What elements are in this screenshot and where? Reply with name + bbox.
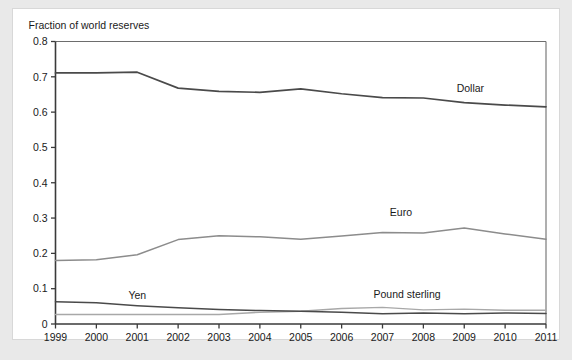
x-axis-tick-label: 2000 — [85, 331, 109, 343]
x-axis-tick-label: 2010 — [493, 331, 517, 343]
y-axis-tick-label: 0.8 — [33, 35, 48, 47]
x-axis-tick-label: 2011 — [535, 331, 558, 343]
chart-title: Fraction of world reserves — [29, 19, 150, 31]
y-axis-tick-label: 0.6 — [33, 106, 48, 118]
series-label-euro: Euro — [390, 206, 412, 218]
screenshot-root: Fraction of world reserves00.10.20.30.40… — [0, 0, 572, 360]
y-axis-tick-label: 0.5 — [33, 141, 48, 153]
series-label-yen: Yen — [128, 289, 146, 301]
y-axis-tick-label: 0.7 — [33, 71, 48, 83]
y-axis-tick-label: 0.1 — [33, 282, 48, 294]
series-label-dollar: Dollar — [457, 82, 485, 94]
series-label-pound-sterling: Pound sterling — [373, 288, 440, 300]
series-line-yen — [56, 302, 547, 314]
y-axis-tick-label: 0 — [42, 318, 48, 330]
y-axis-tick-label: 0.3 — [33, 212, 48, 224]
y-axis-tick-label: 0.2 — [33, 247, 48, 259]
x-axis-tick-label: 2009 — [453, 331, 477, 343]
x-axis-tick-label: 2008 — [412, 331, 436, 343]
x-axis-tick-label: 2001 — [126, 331, 150, 343]
x-axis-tick-label: 2006 — [330, 331, 354, 343]
x-axis-tick-label: 2003 — [207, 331, 231, 343]
y-axis-tick-label: 0.4 — [33, 177, 48, 189]
reserves-line-chart: Fraction of world reserves00.10.20.30.40… — [0, 0, 572, 360]
series-line-euro — [56, 228, 547, 260]
x-axis-tick-label: 2002 — [166, 331, 190, 343]
x-axis-tick-label: 1999 — [44, 331, 68, 343]
x-axis-tick-label: 2004 — [248, 331, 272, 343]
x-axis-tick-label: 2005 — [289, 331, 313, 343]
x-axis-tick-label: 2007 — [371, 331, 395, 343]
